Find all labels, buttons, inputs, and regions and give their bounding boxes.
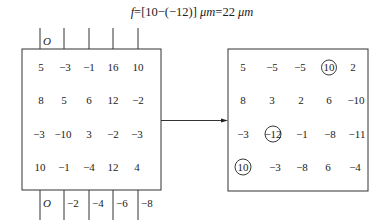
grid-cell: −2 — [107, 128, 119, 140]
grid-cell: −1 — [296, 128, 308, 140]
grid-cell: −5 — [266, 61, 278, 73]
formula-unit-1: μm — [199, 5, 215, 19]
grid-cell: −1 — [83, 61, 95, 73]
formula-result: =22 — [215, 5, 238, 19]
left-grid: O O −2 −4 −6 −8 5 −3 −1 16 10 8 5 6 12 −… — [22, 28, 161, 220]
grid-cell: 2 — [350, 61, 356, 73]
flatness-diagram: f=[10−(−12)] μm=22 μm O O −2 −4 −6 −8 — [0, 0, 384, 222]
grid-cell: −8 — [296, 161, 308, 173]
grid-cell: −12 — [264, 128, 281, 140]
grid-cell: 10 — [238, 161, 250, 173]
grid-cell: −1 — [58, 161, 70, 173]
formula-expression: =[10−(−12)] — [134, 5, 200, 19]
grid-cell: 10 — [35, 161, 47, 173]
bottom-axis-label: −4 — [92, 197, 104, 209]
grid-cell: −8 — [324, 128, 336, 140]
grid-cell: −11 — [349, 128, 366, 140]
top-axis: O — [40, 28, 138, 49]
grid-cell: −10 — [347, 94, 365, 106]
grid-cell: −10 — [54, 128, 72, 140]
bottom-axis-label: −8 — [141, 197, 153, 209]
formula: f=[10−(−12)] μm=22 μm — [131, 5, 254, 19]
grid-cell: −4 — [349, 161, 361, 173]
grid-cell: 4 — [134, 161, 140, 173]
top-axis-label: O — [43, 35, 51, 47]
grid-cell: −3 — [33, 128, 45, 140]
grid-cell: −2 — [132, 94, 144, 106]
grid-cell: −3 — [59, 61, 71, 73]
left-grid-values: 5 −3 −1 16 10 8 5 6 12 −2 −3 −10 3 −2 −3… — [33, 61, 144, 173]
grid-cell: −3 — [237, 128, 249, 140]
grid-cell: 3 — [269, 94, 275, 106]
grid-cell: 10 — [324, 61, 336, 73]
grid-cell: 5 — [38, 61, 44, 73]
grid-cell: 6 — [325, 161, 331, 173]
grid-cell: 8 — [38, 94, 44, 106]
grid-cell: 6 — [86, 94, 92, 106]
grid-cell: 2 — [298, 94, 304, 106]
bottom-axis-label: −6 — [116, 197, 128, 209]
grid-cell: 5 — [61, 94, 67, 106]
grid-cell: 5 — [240, 61, 246, 73]
bottom-axis-label: −2 — [67, 197, 79, 209]
grid-cell: 10 — [133, 61, 145, 73]
grid-cell: 12 — [108, 161, 119, 173]
grid-cell: 12 — [108, 94, 119, 106]
grid-cell: −4 — [83, 161, 95, 173]
bottom-axis-label: O — [43, 197, 51, 209]
formula-unit-2: μm — [237, 5, 253, 19]
grid-cell: 3 — [86, 128, 92, 140]
arrow-right-icon — [161, 119, 228, 123]
grid-cell: 8 — [240, 94, 246, 106]
grid-cell: 16 — [108, 61, 120, 73]
grid-cell: −3 — [269, 161, 281, 173]
grid-cell: −5 — [294, 61, 306, 73]
right-grid: 5 −5 −5 10 2 8 3 2 6 −10 −3 −12 −1 −8 −1… — [228, 49, 368, 191]
bottom-axis: O −2 −4 −6 −8 — [40, 190, 153, 220]
grid-cell: 6 — [326, 94, 332, 106]
grid-cell: −3 — [131, 128, 143, 140]
right-grid-values: 5 −5 −5 10 2 8 3 2 6 −10 −3 −12 −1 −8 −1… — [237, 61, 365, 173]
